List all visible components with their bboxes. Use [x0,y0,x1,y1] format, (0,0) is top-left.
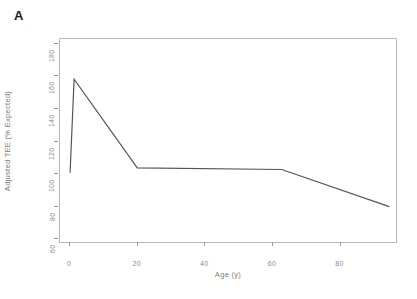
y-tick-label-wrap: 80 [4,201,52,211]
y-tick-label-wrap: 180 [4,38,52,48]
x-tick-label-wrap: 0 [54,252,84,270]
y-tick-mark [54,141,58,142]
x-tick-label-wrap: 60 [257,252,287,270]
y-axis-tick-labels: 6080100120140160180 [4,38,54,243]
panel-label: A [14,8,24,23]
y-tick-mark [54,43,58,44]
figure-panel-a: A Adjusted TEE (% Expected) 608010012014… [0,0,417,299]
y-tick-mark [54,108,58,109]
y-tick-label-wrap: 60 [4,233,52,243]
x-tick-mark [340,242,341,246]
x-axis-tick-labels: 020406080 [59,252,397,264]
y-tick-mark [54,206,58,207]
x-tick-label: 60 [268,260,276,267]
data-series-svg [60,39,396,242]
x-tick-mark [69,242,70,246]
y-tick-label: 100 [49,180,56,193]
y-tick-mark [54,75,58,76]
x-tick-mark [272,242,273,246]
x-axis-tick-marks [59,243,397,251]
y-tick-mark [54,173,58,174]
x-tick-label: 0 [67,260,71,267]
y-tick-label: 180 [49,49,56,62]
data-line-0 [70,79,389,206]
y-tick-label-wrap: 100 [4,168,52,178]
y-tick-label: 140 [49,115,56,128]
x-tick-label: 20 [132,260,140,267]
plot-area [59,38,397,243]
x-tick-label-wrap: 20 [122,252,152,270]
x-tick-label-wrap: 40 [189,252,219,270]
y-tick-label-wrap: 140 [4,103,52,113]
y-tick-mark [54,238,58,239]
x-axis-title: Age (y) [59,270,397,279]
y-tick-label: 120 [49,147,56,160]
x-tick-label: 40 [200,260,208,267]
y-tick-label: 80 [49,212,56,220]
y-tick-label-wrap: 160 [4,70,52,80]
x-tick-label-wrap: 80 [325,252,355,270]
y-tick-label-wrap: 120 [4,136,52,146]
x-tick-label: 80 [335,260,343,267]
x-tick-mark [204,242,205,246]
y-tick-label: 160 [49,82,56,95]
x-tick-mark [137,242,138,246]
